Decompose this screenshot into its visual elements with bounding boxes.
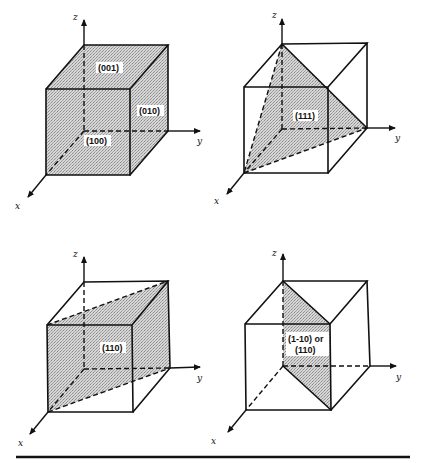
y-axis-label: y [395,372,402,382]
x-axis-label: x [211,436,216,446]
plane-100 [46,89,130,175]
hidden-edge [246,366,283,410]
hidden-edge [282,128,367,129]
x-axis-arrow [28,175,46,197]
x-axis-label: x [15,201,20,211]
z-axis-label: z [72,12,78,22]
panel-1-cube: z y x (001) (010) (100) [15,12,203,211]
x-axis-label: x [18,438,23,448]
label-1-10-or: (1-10) or [288,334,324,344]
y-axis-label: y [394,133,401,143]
hidden-edge [84,368,170,369]
x-axis-arrow [227,173,244,194]
y-axis-arrow [170,367,200,368]
x-axis-arrow [228,410,246,432]
y-axis-label: y [196,136,203,146]
z-axis-label: z [271,248,277,258]
label-100: (100) [86,136,107,146]
label-001: (001) [98,63,119,73]
x-axis-label: x [214,196,219,206]
panel-3-cube: z y x (110) [18,249,203,448]
crystal-planes-figure: z y x (001) (010) (100) z y x (111) [0,0,422,463]
panel-2-cube: z y x (111) [214,10,401,206]
z-axis-label: z [72,249,78,259]
y-axis-label: y [196,373,203,383]
z-axis-label: z [271,10,277,20]
label-110: (110) [102,343,123,353]
label-010: (010) [139,106,160,116]
label-111: (111) [295,111,315,121]
panel-4-cube: z y x (1-10) or (110) [211,248,402,446]
label-110-alt: (110) [295,345,316,355]
x-axis-arrow [30,412,48,434]
